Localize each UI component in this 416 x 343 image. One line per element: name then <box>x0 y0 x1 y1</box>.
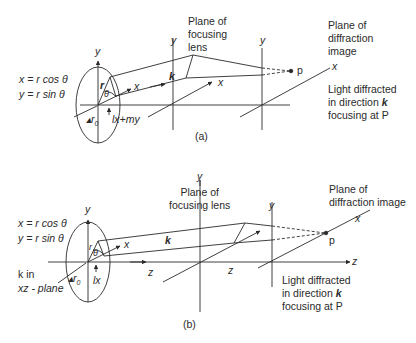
lens-plane-x-b <box>163 231 260 282</box>
equation-y-b: y = r sin θ <box>18 232 64 245</box>
image-y-label-a: y <box>260 34 265 47</box>
focus-point-label-b: p <box>329 234 335 247</box>
k-label-b: k <box>165 234 171 247</box>
r0-label-b: ▴r0 <box>68 272 80 289</box>
caption-b: (b) <box>183 318 196 331</box>
k-in-label-b-1: k in <box>18 268 34 281</box>
lens-x-label-a: x <box>218 76 223 89</box>
lens-y-label-a: y <box>171 34 176 47</box>
axis-y-label-b: y <box>85 203 90 216</box>
image-y-label-b: y <box>269 199 274 212</box>
image-x-label-b: x <box>355 212 360 225</box>
phase-label-b: lx <box>93 274 101 287</box>
image-x-label-a: x <box>332 60 337 73</box>
focus-point-label-a: p <box>297 64 303 77</box>
angle-theta-label-b: θ <box>93 247 98 260</box>
vector-r-label-b: r <box>89 241 92 254</box>
k-label-a: k <box>169 70 175 83</box>
k-in-label-b-2: xz - plane <box>18 282 64 295</box>
lens-y-label-b: y <box>197 170 202 183</box>
r0-label-a: ▴r0 <box>86 113 98 130</box>
image-z-label-b: z <box>352 255 357 268</box>
angle-theta-label-a: θ <box>104 88 109 101</box>
focus-point-b <box>324 231 328 235</box>
lens-plane-label-a: Plane of focusing lens <box>188 15 227 54</box>
note-b: Light diffracted in direction k focusing… <box>282 274 351 313</box>
axis-x-local-label-a: x <box>134 80 139 93</box>
focus-point-a <box>289 69 293 73</box>
ray-top-a <box>110 55 262 77</box>
equation-y-a: y = r sin θ <box>19 88 65 101</box>
note-a: Light diffracted in direction k focusing… <box>328 83 397 122</box>
axis-x-local-label-b: x <box>124 238 129 251</box>
phase-label-a: lx+my <box>112 113 140 126</box>
image-plane-label-b: Plane of diffraction image <box>329 183 406 209</box>
lens-plane-x-a <box>148 82 212 117</box>
caption-a: (a) <box>195 130 208 143</box>
image-plane-label-a: Plane of diffraction image <box>328 19 373 58</box>
equation-x-b: x = r cos θ <box>18 217 67 230</box>
lens-plane-label-b: Plane of focusing lens <box>169 186 230 212</box>
equation-x-a: x = r cos θ <box>19 73 68 86</box>
axis-y-label-a: y <box>95 45 100 58</box>
lens-z-label-b: z <box>228 264 233 277</box>
axis-z-label-b: z <box>148 266 153 279</box>
